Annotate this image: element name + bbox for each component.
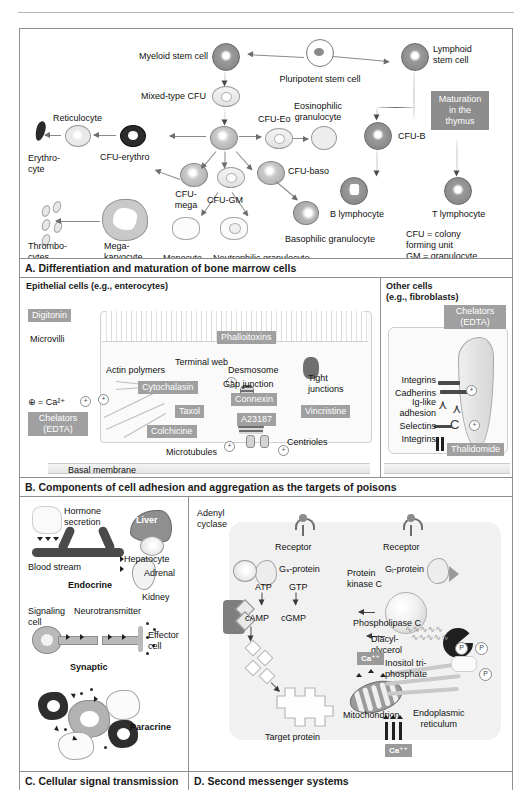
axon-segment-1 xyxy=(58,636,98,645)
vesicle-dot-1 xyxy=(146,622,149,625)
paracrine-dot-3 xyxy=(64,728,67,731)
phosphate-circle-2: P xyxy=(475,642,488,655)
diacylglycerol-chain-2: ∿∿∿∿∿ xyxy=(411,632,449,642)
ca-channel-1 xyxy=(385,722,388,740)
label-ig-like-adhesion: Ig-like adhesion xyxy=(378,397,436,418)
cadherin-bar-1 xyxy=(438,381,460,385)
label-maturation-in-thymus: Maturation in the thymus xyxy=(431,91,489,130)
line-branch-b xyxy=(377,107,415,108)
ig-like-receptor-1: ⋏ xyxy=(438,397,448,412)
label-mixed-type-cfu: Mixed-type CFU xyxy=(90,91,206,102)
tag-ca-mitochondrion: Ca⁺⁺ xyxy=(357,652,384,665)
panel-d-caption: D. Second messenger systems xyxy=(189,771,512,790)
b-lymphocyte-glyph xyxy=(340,177,368,205)
cfu-b-glyph xyxy=(364,122,392,150)
subhead-other-cells: Other cells (e.g., fibroblasts) xyxy=(386,281,459,303)
textbook-page: Myeloid stem cell Pluripotent stem cell … xyxy=(0,0,532,806)
label-adrenal: Adrenal xyxy=(144,568,175,579)
label-tight-junctions: Tight junctions xyxy=(308,373,344,394)
arrow-to-pkc xyxy=(359,612,375,613)
secretion-arrow-2 xyxy=(45,537,51,541)
cadherin-bar-2 xyxy=(440,390,468,394)
label-microvilli: Microvilli xyxy=(30,334,65,345)
label-receptor-left: Receptor xyxy=(275,542,312,553)
panel-a-body: Myeloid stem cell Pluripotent stem cell … xyxy=(20,29,512,259)
arrow-retic-to-erythro xyxy=(45,135,61,136)
gs-effector-glyph xyxy=(233,560,257,582)
divider-b-c xyxy=(20,496,512,497)
arrow-to-cfu-eo xyxy=(239,136,261,137)
arrow-camp-down xyxy=(251,627,252,641)
arrow-gtp xyxy=(296,593,297,605)
inositol-ring-glyph xyxy=(451,656,477,672)
label-calcium-legend: ⊕ = Ca²⁺ xyxy=(28,397,65,408)
figure-plate: Myeloid stem cell Pluripotent stem cell … xyxy=(19,28,513,790)
gi-protein-glyph xyxy=(427,558,449,584)
tag-chelators-right: Chelators (EDTA) xyxy=(444,305,506,329)
label-synaptic: Synaptic xyxy=(70,662,108,673)
label-phospholipase-c: Phospholipase C xyxy=(353,618,421,629)
secretion-arrow-1 xyxy=(37,537,43,541)
label-erythrocyte: Erythro- cyte xyxy=(28,153,60,174)
paracrine-cell-dark-1 xyxy=(38,692,68,720)
panel-d: ∿∿∿∿∿ ∿∿∿∿∿ P P P Adenyl cyclase Recepto… xyxy=(188,496,512,790)
panel-b-caption: B. Components of cell adhesion and aggre… xyxy=(20,477,512,496)
label-terminal-web: Terminal web xyxy=(175,357,228,368)
selectin-receptor: C xyxy=(450,417,459,432)
label-hepatocyte: Hepatocyte xyxy=(124,554,170,565)
ca-channel-2 xyxy=(392,722,395,740)
neutrophilic-granulocyte-glyph xyxy=(220,217,248,240)
calcium-marker-2: + xyxy=(98,394,109,405)
label-pluripotent-stem-cell: Pluripotent stem cell xyxy=(260,74,380,85)
ca-channel-3 xyxy=(399,722,402,740)
label-gap-junction: Gap junction xyxy=(223,379,274,390)
pluripotent-stem-cell-glyph xyxy=(306,39,334,67)
label-adenyl-cyclase: Adenyl cyclase xyxy=(197,508,227,529)
phosphate-circle-1: P xyxy=(455,642,468,655)
arrow-to-cfu-baso xyxy=(236,151,253,170)
panel-c-caption: C. Cellular signal transmission xyxy=(20,771,188,790)
tag-connexin: Connexin xyxy=(231,393,277,406)
adenyl-cyclase-glyph xyxy=(223,600,245,634)
arrow-thymus-to-tlympho xyxy=(457,140,458,176)
label-actin-polymers: Actin polymers xyxy=(106,365,165,376)
arrow-atp xyxy=(262,593,263,605)
arrow-cfueo-to-eosino xyxy=(293,138,308,139)
label-integrins-1: Integrins xyxy=(378,375,436,386)
tag-colchicine: Colchicine xyxy=(147,425,197,438)
arrow-mixedcfu-down xyxy=(225,108,226,125)
label-gi-protein: Gᵢ-protein xyxy=(385,564,424,575)
label-gs-protein: Gₛ-protein xyxy=(279,564,320,575)
header-rule xyxy=(18,12,514,13)
thrombocyte-glyph-3 xyxy=(40,218,52,232)
tag-cytochalasin: Cytochalasin xyxy=(138,381,198,394)
fibroblast-membrane xyxy=(384,463,510,474)
label-b-lymphocyte: B lymphocyte xyxy=(330,209,384,220)
receptor-right-glyph xyxy=(403,518,419,536)
receptor-left-glyph xyxy=(295,518,311,536)
lymphoid-stem-cell-glyph xyxy=(401,43,429,71)
label-reticulocyte: Reticulocyte xyxy=(53,113,102,124)
calcium-marker-6: + xyxy=(466,385,477,396)
megakaryocyte-glyph xyxy=(102,199,148,241)
label-lymphoid-stem-cell: Lymphoid stem cell xyxy=(433,44,503,65)
synaptic-terminal xyxy=(138,626,143,652)
adrenal-arrow-2 xyxy=(120,566,124,572)
label-effector-cell: Effector cell xyxy=(148,630,179,651)
hepatocyte-glyph xyxy=(140,536,164,556)
arrow-cfub-to-blympho xyxy=(377,150,378,176)
centriole-glyph-1 xyxy=(246,435,255,448)
label-kidney: Kidney xyxy=(142,592,170,603)
arrow-mega-to-thrombo xyxy=(56,221,100,222)
gi-effector-glyph xyxy=(449,566,459,582)
thrombocyte-glyph-1 xyxy=(40,204,52,218)
phosphate-circle-3: P xyxy=(479,668,492,681)
tag-taxol: Taxol xyxy=(175,405,204,418)
tag-a23187: A23187 xyxy=(237,413,276,426)
thalidomide-channel-1 xyxy=(436,437,439,451)
label-thrombocytes: Thrombo- cytes xyxy=(28,241,67,259)
label-paracrine: Paracrine xyxy=(130,722,171,733)
tag-ca-er: Ca⁺⁺ xyxy=(385,744,412,757)
arrow-pluri-to-lymphoid xyxy=(333,56,389,62)
cfu-baso-glyph xyxy=(257,161,285,185)
